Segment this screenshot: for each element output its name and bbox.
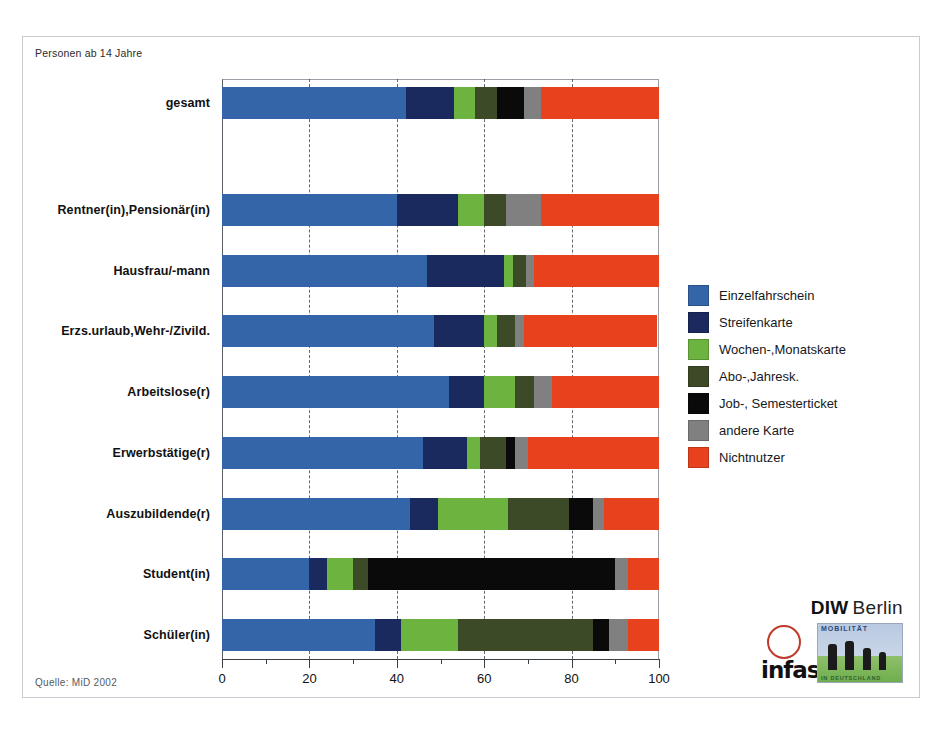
- bar-segment: [327, 558, 353, 590]
- bar-row: gesamt: [222, 87, 659, 119]
- legend-label: Nichtnutzer: [719, 450, 785, 465]
- bar-segment: [222, 315, 434, 347]
- bar-segment: [513, 255, 526, 287]
- bar-segment: [593, 619, 608, 651]
- bar-segment: [222, 558, 309, 590]
- bar-segment: [524, 87, 541, 119]
- plot-area: gesamtRentner(in),Pensionär(in)Hausfrau/…: [222, 79, 659, 659]
- bar-row: Hausfrau/-mann: [222, 255, 659, 287]
- berlin-logo-text: Berlin: [853, 597, 903, 618]
- bar-segment: [434, 315, 484, 347]
- bar-segment: [484, 376, 515, 408]
- legend-item: Wochen-,Monatskarte: [688, 339, 846, 360]
- x-tick-major: [309, 659, 310, 668]
- legend-swatch: [688, 339, 709, 360]
- legend-item: Nichtnutzer: [688, 447, 846, 468]
- bar-segment: [526, 255, 535, 287]
- category-label: Schüler(in): [144, 628, 210, 642]
- mid-figure-4: [879, 652, 886, 670]
- legend-item: Job-, Semesterticket: [688, 393, 846, 414]
- bar-segment: [528, 437, 659, 469]
- x-tick-major: [397, 659, 398, 668]
- bar-segment: [438, 498, 508, 530]
- legend-swatch: [688, 366, 709, 387]
- bar-segment: [541, 87, 659, 119]
- mid-figure-3: [863, 648, 871, 670]
- legend-label: Job-, Semesterticket: [719, 396, 838, 411]
- bar-segment: [222, 376, 449, 408]
- source-note: Quelle: MiD 2002: [35, 677, 117, 688]
- category-label: Erwerbstätige(r): [113, 446, 210, 460]
- bar-segment: [515, 437, 528, 469]
- bar-segment: [449, 376, 484, 408]
- category-label: Auszubildende(r): [106, 507, 210, 521]
- x-tick-label: 60: [477, 671, 491, 686]
- legend-label: Abo-,Jahresk.: [719, 369, 799, 384]
- category-label: gesamt: [166, 96, 210, 110]
- x-tick-label: 0: [218, 671, 225, 686]
- legend: EinzelfahrscheinStreifenkarteWochen-,Mon…: [688, 285, 846, 468]
- category-label: Erzs.urlaub,Wehr-/Zivild.: [61, 324, 210, 338]
- bar-segment: [628, 558, 659, 590]
- bar-segment: [534, 255, 659, 287]
- diw-berlin-logo: DIWBerlin: [811, 597, 903, 619]
- bar-row: Student(in): [222, 558, 659, 590]
- category-label: Student(in): [143, 567, 210, 581]
- x-tick-minor: [441, 659, 442, 664]
- bar-segment: [615, 558, 628, 590]
- bar-segment: [309, 558, 326, 590]
- x-tick-label: 20: [302, 671, 316, 686]
- x-tick-minor: [615, 659, 616, 664]
- x-tick-major: [484, 659, 485, 668]
- category-label: Hausfrau/-mann: [113, 264, 210, 278]
- bar-row: Erwerbstätige(r): [222, 437, 659, 469]
- people-circle-icon: [767, 625, 801, 659]
- bar-row: Auszubildende(r): [222, 498, 659, 530]
- mid-logo-image: MOBILITÄT IN DEUTSCHLAND: [817, 623, 903, 683]
- mid-figure-2: [845, 641, 854, 670]
- bar-segment: [222, 194, 397, 226]
- bar-segment: [541, 194, 659, 226]
- bar-segment: [375, 619, 401, 651]
- bar-segment: [524, 315, 657, 347]
- bar-segment: [534, 376, 551, 408]
- bar-segment: [397, 194, 458, 226]
- x-tick-major: [222, 659, 223, 668]
- bar-segment: [222, 255, 427, 287]
- bar-segment: [484, 194, 506, 226]
- bar-segment: [497, 315, 514, 347]
- legend-swatch: [688, 393, 709, 414]
- legend-item: andere Karte: [688, 420, 846, 441]
- bar-segment: [480, 437, 506, 469]
- bar-segment: [410, 498, 438, 530]
- bar-segment: [222, 437, 423, 469]
- bar-segment: [222, 619, 375, 651]
- legend-label: Einzelfahrschein: [719, 288, 814, 303]
- legend-item: Einzelfahrschein: [688, 285, 846, 306]
- x-tick-major: [572, 659, 573, 668]
- mid-logo-bottom-text: IN DEUTSCHLAND: [821, 675, 881, 681]
- bar-segment: [467, 437, 480, 469]
- legend-swatch: [688, 312, 709, 333]
- bar-segment: [515, 376, 535, 408]
- bar-segment: [427, 255, 503, 287]
- legend-label: Wochen-,Monatskarte: [719, 342, 846, 357]
- legend-item: Streifenkarte: [688, 312, 846, 333]
- bar-segment: [593, 498, 604, 530]
- bar-row: Rentner(in),Pensionär(in): [222, 194, 659, 226]
- bar-segment: [484, 315, 497, 347]
- bar-segment: [458, 194, 484, 226]
- bar-segment: [604, 498, 659, 530]
- legend-swatch: [688, 447, 709, 468]
- mid-figure-1: [828, 644, 837, 670]
- bar-segment: [423, 437, 467, 469]
- bar-segment: [222, 498, 410, 530]
- bar-segment: [458, 619, 593, 651]
- bar-segment: [508, 498, 569, 530]
- legend-swatch: [688, 285, 709, 306]
- bar-segment: [401, 619, 458, 651]
- bar-segment: [353, 558, 368, 590]
- legend-label: andere Karte: [719, 423, 794, 438]
- bar-segment: [504, 255, 513, 287]
- bar-row: Schüler(in): [222, 619, 659, 651]
